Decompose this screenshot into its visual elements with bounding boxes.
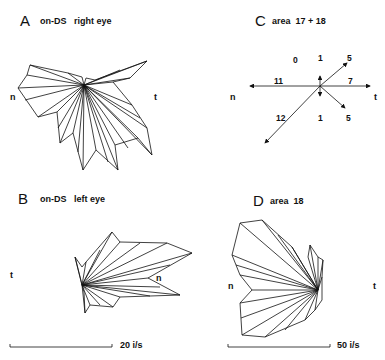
panel-a-letter: A — [20, 12, 30, 29]
polar-plot-b — [75, 232, 192, 313]
polar-plot-a — [18, 61, 152, 170]
scale-label-b: 20 i/s — [120, 340, 143, 350]
polar-plot-d — [232, 220, 323, 337]
panel-d-n-label: n — [228, 281, 234, 291]
vector-diagram-c — [250, 63, 370, 143]
panel-b-letter: B — [18, 190, 28, 207]
panel-b-t-label: t — [10, 270, 13, 280]
scale-label-d: 50 i/s — [337, 340, 360, 350]
count-down-left: 12 — [276, 113, 285, 123]
count-up: 1 — [318, 53, 323, 63]
count-up-left: 0 — [293, 55, 298, 65]
panel-d-title: area 18 — [270, 196, 304, 206]
count-up-right: 5 — [347, 53, 352, 63]
panel-c-n-label: n — [230, 92, 236, 102]
panel-d-t-label: t — [373, 281, 376, 291]
panel-b-title: on-DS left eye — [40, 194, 105, 204]
panel-a-n-label: n — [10, 92, 16, 102]
panel-d-letter: D — [253, 192, 264, 209]
panel-c-t-label: t — [374, 92, 377, 102]
panel-b-n-label: n — [156, 273, 162, 283]
figure-canvas — [0, 0, 385, 360]
panel-a-t-label: t — [154, 92, 157, 102]
panel-c-letter: C — [255, 12, 266, 29]
panel-a-title: on-DS right eye — [40, 16, 112, 26]
scale-bar-b — [10, 344, 112, 347]
scale-bar-d — [228, 344, 330, 347]
panel-c-title: area 17 + 18 — [272, 16, 326, 26]
count-left: 11 — [274, 76, 283, 86]
count-right: 7 — [348, 76, 353, 86]
count-down: 1 — [318, 113, 323, 123]
count-down-right: 5 — [346, 113, 351, 123]
